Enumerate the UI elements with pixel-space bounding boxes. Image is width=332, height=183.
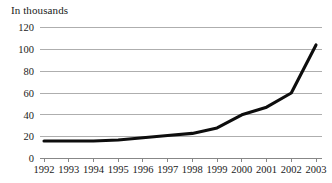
y-axis-tick-label: 100 [18, 44, 34, 55]
x-axis-tick-label: 1998 [182, 164, 203, 175]
y-axis-tick-label: 0 [29, 153, 34, 164]
x-axis-tick-label: 1994 [83, 164, 105, 175]
y-axis-tick-label: 120 [18, 22, 34, 33]
x-axis-tick-label: 2000 [231, 164, 252, 175]
x-axis-tick-label: 1997 [157, 164, 178, 175]
x-axis-tick-label: 2002 [281, 164, 302, 175]
y-axis-tick-label: 60 [24, 88, 35, 99]
gridlines [40, 28, 322, 159]
y-axis-tick-label: 20 [24, 131, 35, 142]
y-axis-tick-label: 80 [24, 66, 35, 77]
y-axis-tick-label: 40 [24, 110, 35, 121]
x-axis-tick-label: 1995 [108, 164, 129, 175]
chart-plot-area: 020406080100120 199219931994199519961997… [0, 0, 332, 183]
line-chart: In thousands 020406080100120 19921993199… [0, 0, 332, 183]
x-axis-tick-label: 2001 [256, 164, 277, 175]
x-axis-tick-label: 1993 [58, 164, 79, 175]
x-axis-tick-label: 1999 [207, 164, 228, 175]
x-axis-tick-label: 1996 [132, 164, 153, 175]
x-axis-tick-label: 2003 [306, 164, 327, 175]
x-axis-tick-label: 1992 [34, 164, 55, 175]
x-axis-tick-labels: 1992199319941995199619971998199920002001… [34, 164, 327, 175]
y-axis-tick-labels: 020406080100120 [18, 22, 34, 164]
